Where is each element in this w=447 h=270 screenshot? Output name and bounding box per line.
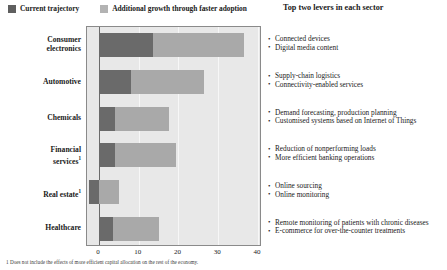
bar-segment-additional-growth [153,33,244,57]
gridline [178,27,179,245]
bar-segment-current-trajectory [99,107,115,131]
bar-row [87,70,260,94]
lever-item: E-commerce for over-the-counter treatmen… [268,227,447,236]
lever-item: Connectivity-enabled services [268,81,447,90]
bar-segment-current-trajectory [99,143,115,167]
x-axis-tick-label: 20 [174,248,181,256]
lever-item: Digital media content [268,44,447,53]
bar-segment-additional-growth [115,143,177,167]
bar-segment-current-trajectory [99,217,113,241]
x-axis-tick-label: 10 [134,248,141,256]
levers-group-automotive: Supply-chain logisticsConnectivity-enabl… [268,72,447,89]
chart-footnote: 1 Does not include the effects of more e… [6,259,198,265]
category-label-healthcare: Healthcare [0,223,81,232]
levers-group-real-estate: Online sourcingOnline monitoring [268,182,447,199]
chart-legend: Current trajectory Additional growth thr… [8,4,247,13]
bar-segment-additional-growth [113,217,159,241]
levers-group-chemicals: Demand forecasting, production planningC… [268,109,447,126]
bar-row [87,107,260,131]
gridline [218,27,219,245]
category-label-chemicals: Chemicals [0,113,81,122]
bar-row [87,217,260,241]
bar-segment-current-trajectory [99,33,153,57]
x-axis-tick-label: 30 [214,248,221,256]
bar-row [87,33,260,57]
lever-item: More efficient banking operations [268,154,447,163]
legend-label-additional: Additional growth through faster adoptio… [112,4,247,13]
bar-row [87,143,260,167]
bar-segment-current-trajectory [89,180,99,204]
chart-plot-area [86,26,261,246]
levers-group-healthcare: Remote monitoring of patients with chron… [268,219,447,236]
levers-heading: Top two levers in each sector [283,3,383,12]
bar-segment-additional-growth [115,107,169,131]
axis-zero-line [99,27,100,245]
bar-row [87,180,260,204]
gridline [258,27,259,245]
x-axis-tick-label: 0 [96,248,100,256]
lever-item: Online monitoring [268,191,447,200]
legend-entry-current-trajectory: Current trajectory [8,4,79,13]
bar-segment-additional-growth [131,70,205,94]
category-label-automotive: Automotive [0,77,81,86]
legend-label-current: Current trajectory [20,4,79,13]
bar-segment-current-trajectory [99,70,131,94]
legend-swatch-icon-current [8,5,16,13]
levers-group-consumer-electronics: Connected devicesDigital media content [268,35,447,52]
category-label-consumer-electronics: Consumerelectronics [0,35,81,53]
lever-item: Customised systems based on Internet of … [268,117,447,126]
category-label-real-estate: Real estate1 [0,187,81,199]
x-axis-tick-label: 40 [254,248,261,256]
gridline [139,27,140,245]
legend-entry-additional-growth: Additional growth through faster adoptio… [100,4,247,13]
levers-group-financial-services: Reduction of nonperforming loadsMore eff… [268,145,447,162]
category-label-financial-services: Financialservices1 [0,145,81,166]
bar-segment-additional-growth [99,180,119,204]
legend-swatch-icon-additional [100,5,108,13]
